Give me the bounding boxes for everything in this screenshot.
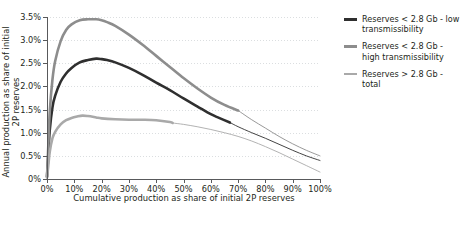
x-tick-label: 60% xyxy=(202,185,220,193)
y-tick-label: 3.5% xyxy=(20,13,41,21)
x-tick-label: 70% xyxy=(229,185,247,193)
x-tick-label: 40% xyxy=(147,185,165,193)
chart-figure: 0%0.5%1.0%1.5%2.0%2.5%3.0%3.5% 0%10%20%3… xyxy=(0,0,460,226)
legend-item[interactable]: Reserves > 2.8 Gb - total xyxy=(344,69,460,89)
legend-color-swatch xyxy=(344,73,357,76)
y-tick-label: 0.5% xyxy=(20,152,41,160)
legend-color-swatch xyxy=(344,45,357,48)
legend-item-label: Reserves < 2.8 Gb - low transmissibility xyxy=(362,14,460,34)
legend-item-label: Reserves > 2.8 Gb - total xyxy=(362,69,460,89)
x-tick-label: 10% xyxy=(65,185,83,193)
x-tick-label: 50% xyxy=(174,185,192,193)
y-tick-label: 1.5% xyxy=(20,105,41,113)
series-tail-line xyxy=(230,123,320,161)
y-tick-label: 2.5% xyxy=(20,59,41,67)
y-tick-label: 2.0% xyxy=(20,82,41,90)
y-axis-title: Annual production as share of initial 2P… xyxy=(1,22,21,182)
series-lines xyxy=(47,17,320,179)
x-tick-label: 30% xyxy=(120,185,138,193)
x-tick-label: 90% xyxy=(284,185,302,193)
series-tail-line xyxy=(238,111,320,156)
x-tick-label: 0% xyxy=(41,185,54,193)
y-axis-line xyxy=(47,17,48,180)
y-tick-label: 3.0% xyxy=(20,36,41,44)
series-line xyxy=(47,116,173,178)
legend-item[interactable]: Reserves < 2.8 Gb - high transmissibilit… xyxy=(344,41,460,61)
chart-legend: Reserves < 2.8 Gb - low transmissibility… xyxy=(344,14,460,96)
x-axis-title: Cumulative production as share of initia… xyxy=(47,193,321,203)
y-tick-label: 1.0% xyxy=(20,129,41,137)
legend-item[interactable]: Reserves < 2.8 Gb - low transmissibility xyxy=(344,14,460,34)
x-tick-label: 20% xyxy=(92,185,110,193)
x-axis-line xyxy=(47,179,321,180)
plot-area: 0%0.5%1.0%1.5%2.0%2.5%3.0%3.5% 0%10%20%3… xyxy=(47,17,320,179)
series-line xyxy=(47,19,238,176)
x-tick-label: 100% xyxy=(308,185,331,193)
x-tick-label: 80% xyxy=(256,185,274,193)
legend-item-label: Reserves < 2.8 Gb - high transmissibilit… xyxy=(362,41,460,61)
legend-color-swatch xyxy=(344,18,357,21)
y-tick-label: 0% xyxy=(28,175,41,183)
